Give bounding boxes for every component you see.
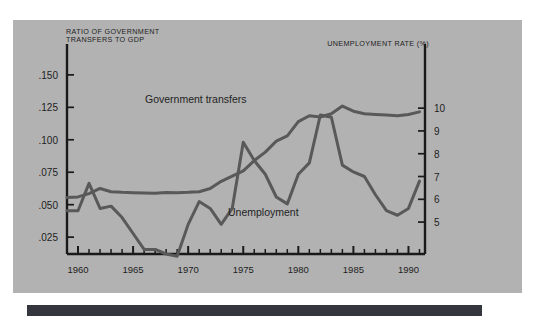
y-tick-label-right: 9 xyxy=(434,126,440,137)
y-tick-label-left: .075 xyxy=(39,167,59,178)
y-tick-label-left: .125 xyxy=(39,102,59,113)
y-tick-label-right: 8 xyxy=(434,149,440,160)
y-tick-label-right: 6 xyxy=(434,194,440,205)
y-tick-label-right: 5 xyxy=(434,217,440,228)
y-tick-label-right: 10 xyxy=(434,103,446,114)
series-label-transfers: Government transfers xyxy=(145,93,247,105)
y-tick-label-right: 7 xyxy=(434,172,440,183)
x-tick-label: 1980 xyxy=(288,264,309,275)
y-tick-label-left: .100 xyxy=(39,135,59,146)
series-label-unemployment: Unemployment xyxy=(228,206,299,218)
y-tick-label-left: .150 xyxy=(39,70,59,81)
footer-bar xyxy=(27,305,482,316)
right-axis-title: UNEMPLOYMENT RATE (%) xyxy=(327,39,429,48)
x-tick-label: 1960 xyxy=(67,264,88,275)
left-axis-title-line2: TRANSFERS TO GDP xyxy=(66,35,144,44)
chart-panel: .025.050.075.100.125.1505678910196019651… xyxy=(13,20,522,293)
y-tick-label-left: .050 xyxy=(39,200,59,211)
x-tick-label: 1970 xyxy=(178,264,199,275)
x-tick-label: 1990 xyxy=(398,264,419,275)
series-line-unemployment xyxy=(67,115,419,256)
series-line-government-transfers xyxy=(67,106,419,198)
x-tick-label: 1975 xyxy=(233,264,254,275)
x-tick-label: 1965 xyxy=(123,264,144,275)
line-chart: .025.050.075.100.125.1505678910196019651… xyxy=(13,20,522,293)
y-tick-label-left: .025 xyxy=(39,232,59,243)
x-tick-label: 1985 xyxy=(343,264,364,275)
